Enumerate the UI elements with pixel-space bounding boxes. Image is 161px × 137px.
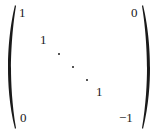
diagonal-matrix: 1 0 1 1 0 −1 [0, 0, 161, 137]
entry-top-left: 1 [19, 6, 26, 19]
entry-top-right: 0 [131, 6, 138, 19]
ellipsis-dot-2 [72, 66, 74, 68]
ellipsis-dot-1 [58, 53, 60, 55]
entry-row4-diagonal: 1 [96, 85, 103, 98]
entry-bottom-right: −1 [119, 111, 133, 124]
entry-bottom-left: 0 [20, 111, 27, 124]
entry-row2-diagonal: 1 [40, 33, 47, 46]
ellipsis-dot-3 [86, 79, 88, 81]
